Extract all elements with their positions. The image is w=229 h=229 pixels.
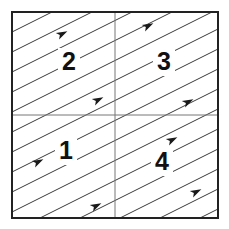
quadrant-label-lower-left: 1 bbox=[55, 137, 77, 165]
vector-field-diagram bbox=[0, 0, 229, 229]
streamline bbox=[12, 0, 218, 12]
quadrant-label-lower-right: 4 bbox=[151, 148, 173, 176]
quadrant-label-upper-right: 3 bbox=[153, 48, 175, 76]
figure-root: 2 3 1 4 bbox=[0, 0, 229, 229]
quadrant-label-upper-left: 2 bbox=[58, 48, 80, 76]
